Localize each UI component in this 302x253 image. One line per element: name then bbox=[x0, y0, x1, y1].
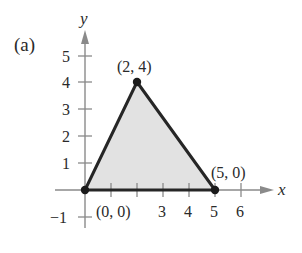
panel-label: (a) bbox=[14, 34, 35, 56]
vertex-right bbox=[211, 186, 219, 194]
svg-text:−1: −1 bbox=[50, 209, 67, 226]
svg-text:5: 5 bbox=[210, 203, 218, 220]
y-axis-label: y bbox=[78, 9, 88, 28]
triangle-plot: (a) x y 5 4 3 2 1 −1 3 4 5 6 bbox=[0, 0, 302, 253]
x-axis-label: x bbox=[277, 180, 286, 199]
svg-text:3: 3 bbox=[62, 101, 70, 118]
svg-text:6: 6 bbox=[236, 203, 244, 220]
vertex-apex bbox=[133, 78, 141, 86]
svg-text:1: 1 bbox=[62, 155, 70, 172]
svg-text:2: 2 bbox=[62, 128, 70, 145]
y-axis-arrow-icon bbox=[81, 30, 89, 44]
point-label-origin: (0, 0) bbox=[96, 203, 131, 221]
x-tick-labels: 3 4 5 6 bbox=[158, 203, 244, 220]
y-tick-labels: 5 4 3 2 1 −1 bbox=[50, 48, 70, 226]
svg-text:5: 5 bbox=[62, 48, 70, 65]
vertex-origin bbox=[81, 186, 89, 194]
point-label-apex: (2, 4) bbox=[117, 58, 152, 76]
svg-text:4: 4 bbox=[62, 74, 70, 91]
svg-text:3: 3 bbox=[158, 203, 166, 220]
svg-text:4: 4 bbox=[184, 203, 192, 220]
point-label-right: (5, 0) bbox=[211, 164, 246, 182]
x-axis-arrow-icon bbox=[260, 186, 274, 194]
